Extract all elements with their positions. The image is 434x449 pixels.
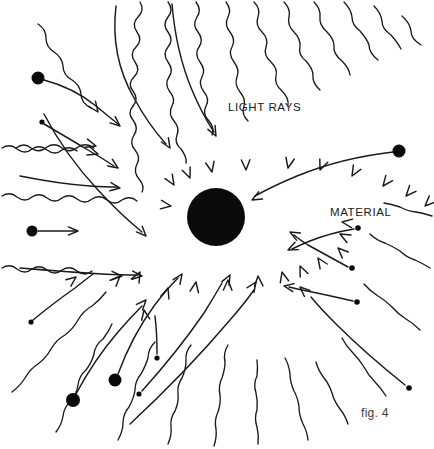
particle-dot-large [109,374,122,387]
figure-caption: fig. 4 [361,406,389,420]
material-sphere [187,188,245,246]
particle-dot-small [354,299,360,305]
particle-dot-small [349,265,355,271]
particle-dot-small [136,391,141,396]
light-rays-material-diagram: LIGHT RAYS MATERIAL fig. 4 [0,0,434,449]
particle-dot-large [32,72,45,85]
particle-dot-small [39,119,44,124]
figure-container: LIGHT RAYS MATERIAL fig. 4 [0,0,434,449]
particle-dot-small [355,225,361,231]
particle-dot-large [27,226,38,237]
particle-dot-large [66,393,80,407]
label-light-rays: LIGHT RAYS [228,101,301,113]
particle-dot-small [406,385,412,391]
particle-dot-large [393,145,406,158]
particle-dot-small [28,319,33,324]
label-material: MATERIAL [330,206,391,218]
particle-dot-small [154,355,159,360]
material-layer [187,188,245,246]
